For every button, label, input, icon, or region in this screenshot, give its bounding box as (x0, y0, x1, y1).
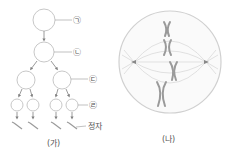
figure-a-spermatogenesis: ㉠ ㉡ ㉢ ㉣ (11, 9, 103, 148)
cell-stage-1 (33, 9, 55, 31)
caption-a: (가) (47, 139, 60, 148)
cell-stage-4 (11, 99, 23, 111)
sperm-icon (51, 122, 61, 129)
cell-stage-4 (27, 99, 39, 111)
label-stage-1: ㉠ (73, 16, 81, 25)
label-sperm: 정자 (88, 121, 103, 131)
label-stage-2: ㉡ (73, 48, 81, 57)
cell-stage-4 (50, 99, 62, 111)
cell-stage-2 (34, 42, 54, 62)
cell-stage-4 (66, 99, 78, 111)
figure-b-cell-division: (나) (119, 11, 221, 144)
diagram-canvas: ㉠ ㉡ ㉢ ㉣ (0, 0, 225, 151)
label-stage-4: ㉣ (89, 101, 97, 110)
cell-stage-3-left (17, 71, 35, 89)
sperm-icon (67, 122, 77, 129)
caption-b: (나) (162, 135, 175, 144)
cell-stage-3-right (53, 71, 71, 89)
label-stage-3: ㉢ (89, 75, 97, 84)
sperm-icon (12, 122, 22, 129)
sperm-icon (28, 122, 38, 129)
